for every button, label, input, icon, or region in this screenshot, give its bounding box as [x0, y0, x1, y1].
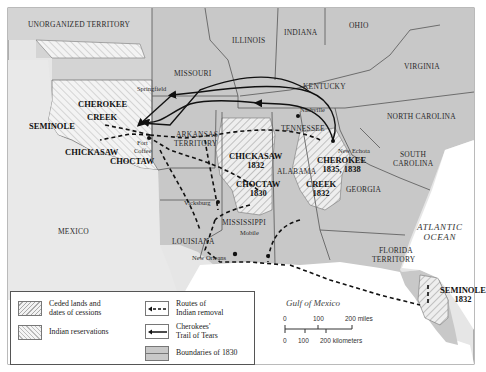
label-arkansas-territory-1: ARKANSAS — [176, 131, 218, 139]
legend-removal-routes: Routes of Indian removal — [145, 300, 223, 317]
label-mississippi: MISSISSIPPI — [222, 219, 266, 227]
label-gulf-of-mexico: Gulf of Mexico — [286, 299, 340, 308]
label-illinois: ILLINOIS — [232, 37, 265, 45]
label-cherokee-west: CHEROKEE — [78, 100, 127, 109]
scale-km-0: 0 — [283, 337, 287, 344]
label-fort-coffee-2: Coffee — [134, 148, 152, 155]
label-mobile: Mobile — [240, 230, 259, 237]
cherokee-east-year: 1835, 1838 — [317, 165, 366, 174]
chickasaw-east-year: 1832 — [229, 161, 282, 170]
label-tennessee: TENNESSEE — [281, 125, 325, 133]
ceded-lands-swatch — [18, 301, 42, 316]
label-creek-west: CREEK — [87, 113, 117, 122]
legend-indian-reservations: Indian reservations — [18, 325, 109, 340]
label-south-carolina-2: CAROLINA — [393, 160, 433, 168]
label-cherokee-east: CHEROKEE 1835, 1838 — [317, 156, 366, 174]
choctaw-east-year: 1830 — [236, 189, 280, 198]
map-legend: Ceded lands and dates of cessions Indian… — [10, 291, 255, 365]
label-alabama: ALABAMA — [277, 168, 316, 176]
legend-ceded-line-2: dates of cessions — [49, 309, 101, 318]
creek-east-year: 1832 — [306, 189, 336, 198]
label-choctaw-west: CHOCTAW — [110, 157, 154, 166]
label-chickasaw-east: CHICKASAW 1832 — [229, 152, 282, 170]
label-new-orleans: New Orleans — [192, 255, 226, 262]
label-florida-territory-1: FLORIDA — [379, 247, 413, 255]
atlantic-line-1: ATLANTIC — [417, 222, 462, 232]
label-seminole-west: SEMINOLE — [29, 122, 75, 131]
label-choctaw-east: CHOCTAW 1830 — [236, 180, 280, 198]
legend-ceded-lands: Ceded lands and dates of cessions — [18, 300, 101, 317]
reservations-swatch — [18, 325, 42, 340]
scale-km-200: 200 kilometers — [320, 337, 362, 344]
scale-miles-0: 0 — [283, 315, 287, 322]
scale-km-100: 100 — [298, 337, 309, 344]
label-kentucky: KENTUCKY — [303, 83, 346, 91]
label-north-carolina: NORTH CAROLINA — [387, 113, 456, 121]
label-nashville: Nashville — [300, 107, 325, 114]
label-florida-territory-2: TERRITORY — [372, 256, 415, 264]
scale-bar — [284, 323, 354, 335]
label-vicksburg: Vicksburg — [184, 200, 211, 207]
solid-arrow-icon — [147, 329, 167, 335]
label-georgia: GEORGIA — [346, 186, 381, 194]
label-south-carolina-1: SOUTH — [400, 151, 426, 159]
trail-of-tears-swatch — [145, 324, 169, 339]
label-atlantic-ocean: ATLANTIC OCEAN — [417, 222, 462, 243]
label-creek-east: CREEK 1832 — [306, 180, 336, 198]
atlantic-line-2: OCEAN — [417, 232, 462, 242]
seminole-east-year: 1832 — [440, 295, 486, 304]
label-missouri: MISSOURI — [174, 70, 211, 78]
label-ohio: OHIO — [349, 22, 369, 30]
label-mexico: MEXICO — [58, 228, 89, 236]
legend-reservations-label: Indian reservations — [49, 328, 109, 337]
legend-trail-of-tears: Cherokees' Trail of Tears — [145, 323, 218, 340]
label-virginia: VIRGINIA — [404, 63, 440, 71]
scale-miles-100: 100 — [313, 315, 324, 322]
label-indiana: INDIANA — [284, 29, 317, 37]
scale-miles-200: 200 miles — [345, 315, 373, 322]
legend-boundaries-1830: Boundaries of 1830 — [145, 346, 238, 361]
label-louisiana: LOUISIANA — [172, 238, 215, 246]
label-seminole-east: SEMINOLE 1832 — [440, 286, 486, 304]
removal-route-swatch — [145, 301, 169, 316]
label-fort-coffee-1: Fort — [137, 140, 148, 147]
label-arkansas-territory-2: TERRITORY — [174, 140, 217, 148]
dashed-arrow-icon — [147, 306, 167, 312]
legend-routes-line-2: Indian removal — [176, 309, 223, 318]
boundaries-swatch — [145, 346, 169, 361]
legend-trail-line-2: Trail of Tears — [176, 332, 218, 341]
legend-boundaries-label: Boundaries of 1830 — [176, 349, 238, 358]
label-springfield: Springfield — [137, 86, 166, 93]
label-unorganized-territory: UNORGANIZED TERRITORY — [28, 21, 130, 29]
label-new-echota: New Echota — [338, 148, 370, 155]
